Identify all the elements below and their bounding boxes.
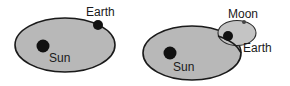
sun-body: [164, 47, 177, 60]
sun-earth-moon-diagram: Sun Earth Moon: [143, 7, 272, 80]
earth-label: Earth: [86, 5, 115, 19]
moon-label: Moon: [228, 7, 258, 21]
earth-body: [223, 31, 233, 41]
earth-label: Earth: [243, 41, 272, 55]
orbit-diagram-canvas: Sun Earth Sun Earth Moon: [0, 0, 290, 86]
sun-label: Sun: [173, 60, 194, 74]
sun-earth-diagram: Sun Earth: [15, 5, 115, 72]
earth-body: [93, 20, 103, 30]
sun-label: Sun: [49, 51, 70, 65]
sun-body: [37, 40, 50, 53]
